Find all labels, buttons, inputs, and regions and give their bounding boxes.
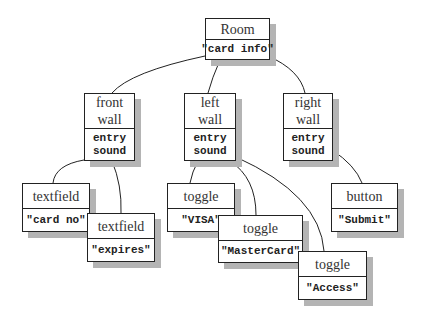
node-value: "card no" bbox=[26, 214, 85, 227]
node-right-wall-title: right wall bbox=[284, 94, 332, 129]
node-toggle-access-title: toggle bbox=[299, 252, 366, 277]
node-label-line: wall bbox=[97, 111, 121, 128]
node-toggle-access-body: "Access" bbox=[299, 277, 366, 299]
node-textfield-card-no: textfield "card no" bbox=[22, 183, 90, 232]
edge-room-front-wall bbox=[112, 56, 205, 93]
node-textfield-expires: textfield "expires" bbox=[87, 213, 155, 262]
node-value-line: entry bbox=[93, 132, 126, 145]
node-toggle-access: toggle "Access" bbox=[298, 251, 367, 300]
node-textfield-card-no-body: "card no" bbox=[23, 209, 89, 231]
node-front-wall: front wall entry sound bbox=[84, 93, 135, 161]
node-left-wall: left wall entry sound bbox=[184, 93, 236, 161]
node-label-line: left bbox=[201, 94, 220, 111]
node-label: button bbox=[347, 188, 383, 205]
node-label: toggle bbox=[184, 188, 219, 205]
node-textfield-card-no-title: textfield bbox=[23, 184, 89, 209]
edge-front-wall-card-no bbox=[53, 160, 84, 183]
node-button-submit: button "Submit" bbox=[331, 183, 398, 232]
edge-room-right-wall bbox=[268, 56, 305, 93]
edge-front-wall-expires bbox=[112, 161, 121, 213]
node-value: "MasterCard" bbox=[221, 245, 300, 258]
node-value-line: sound bbox=[93, 145, 126, 158]
node-button-submit-title: button bbox=[332, 184, 397, 209]
node-right-wall-body: entry sound bbox=[284, 129, 332, 160]
node-value-line: sound bbox=[291, 145, 324, 158]
node-right-wall: right wall entry sound bbox=[283, 93, 333, 161]
node-toggle-mastercard-title: toggle bbox=[219, 216, 302, 241]
node-label-line: wall bbox=[198, 111, 222, 128]
edge-room-left-wall bbox=[208, 60, 220, 93]
node-toggle-mastercard-body: "MasterCard" bbox=[219, 241, 302, 262]
edge-left-wall-visa bbox=[190, 161, 198, 183]
node-label: textfield bbox=[98, 218, 145, 235]
node-value: "Submit" bbox=[338, 214, 391, 227]
node-label-line: front bbox=[96, 94, 123, 111]
node-label: textfield bbox=[33, 188, 80, 205]
node-label: toggle bbox=[315, 256, 350, 273]
node-textfield-expires-title: textfield bbox=[88, 214, 154, 239]
node-front-wall-body: entry sound bbox=[85, 129, 134, 160]
node-front-wall-title: front wall bbox=[85, 94, 134, 129]
node-value: "Access" bbox=[306, 282, 359, 295]
node-value-line: entry bbox=[291, 132, 324, 145]
node-label: toggle bbox=[243, 220, 278, 237]
node-toggle-visa-title: toggle bbox=[168, 184, 234, 209]
node-value-line: entry bbox=[193, 132, 226, 145]
node-label: Room bbox=[220, 21, 254, 38]
node-value: "card info" bbox=[201, 43, 274, 56]
edge-right-wall-submit bbox=[332, 150, 362, 183]
node-room-body: "card info" bbox=[206, 40, 269, 59]
node-textfield-expires-body: "expires" bbox=[88, 239, 154, 261]
node-room: Room "card info" bbox=[205, 18, 270, 60]
node-left-wall-title: left wall bbox=[185, 94, 235, 129]
scene-tree-diagram: Room "card info" front wall entry sound … bbox=[0, 0, 423, 320]
node-toggle-mastercard: toggle "MasterCard" bbox=[218, 215, 303, 263]
node-value: "expires" bbox=[91, 244, 150, 257]
node-label-line: right bbox=[295, 94, 321, 111]
node-value-line: sound bbox=[193, 145, 226, 158]
node-left-wall-body: entry sound bbox=[185, 129, 235, 160]
node-label-line: wall bbox=[296, 111, 320, 128]
node-room-title: Room bbox=[206, 19, 269, 40]
node-button-submit-body: "Submit" bbox=[332, 209, 397, 231]
node-value: "VISA" bbox=[181, 214, 221, 227]
